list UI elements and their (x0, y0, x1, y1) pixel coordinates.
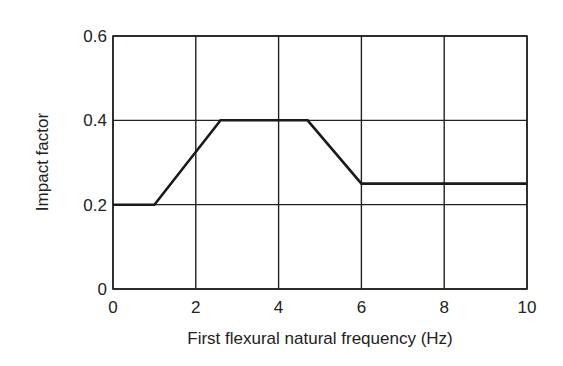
y-tick-label: 0 (98, 280, 107, 299)
impact-factor-chart: 0246810 00.20.40.6 First flexural natura… (0, 0, 563, 366)
x-tick-label: 6 (357, 298, 366, 317)
grid-lines (113, 36, 527, 289)
y-tick-label: 0.4 (83, 111, 107, 130)
x-tick-label: 0 (108, 298, 117, 317)
y-tick-labels: 00.20.40.6 (83, 27, 107, 299)
x-tick-label: 4 (274, 298, 283, 317)
impact-factor-line (113, 120, 527, 204)
plot-frame (113, 36, 527, 289)
y-tick-label: 0.2 (83, 196, 107, 215)
y-tick-label: 0.6 (83, 27, 107, 46)
x-tick-label: 10 (518, 298, 537, 317)
x-tick-label: 8 (439, 298, 448, 317)
x-tick-labels: 0246810 (108, 298, 536, 317)
x-tick-label: 2 (191, 298, 200, 317)
x-axis-label: First flexural natural frequency (Hz) (187, 329, 452, 348)
y-axis-label: Impact factor (33, 113, 52, 212)
